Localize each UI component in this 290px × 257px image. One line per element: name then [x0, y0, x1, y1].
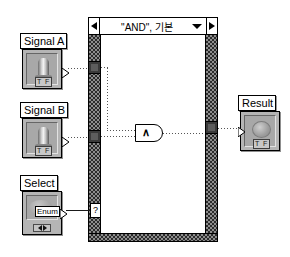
terminal-signal-b[interactable]: T F — [22, 118, 62, 158]
tf-tag-result: T F — [253, 139, 270, 149]
enum-badge: Enum — [35, 206, 60, 217]
case-selector-field[interactable]: "AND", 기본 — [100, 17, 206, 35]
case-structure[interactable]: "AND", 기본 ? ∧ — [88, 17, 218, 242]
label-result: Result — [238, 95, 276, 111]
case-selector-terminal[interactable]: ? — [90, 203, 101, 218]
round-led-icon — [252, 121, 271, 138]
wire-inner-signal-a-to-gate — [107, 130, 136, 131]
case-selector-header[interactable]: "AND", 기본 — [88, 17, 218, 35]
label-signal-a: Signal A — [20, 33, 67, 49]
tf-tag-signal-b: T F — [35, 146, 52, 156]
case-structure-bottom-border[interactable] — [88, 233, 218, 242]
wire-inner-signal-b-to-gate — [101, 136, 136, 137]
tunnel-signal-b[interactable] — [88, 130, 101, 143]
case-selector-label: "AND", 기본 — [121, 19, 173, 34]
prev-case-button[interactable] — [88, 17, 100, 35]
output-arrow-signal-a — [62, 64, 70, 74]
left-right-arrows-icon[interactable] — [33, 224, 51, 232]
label-signal-b: Signal B — [20, 102, 68, 118]
tunnel-result[interactable] — [205, 121, 218, 134]
wire-inner-signal-a-stub — [101, 67, 108, 68]
and-function-node[interactable]: ∧ — [135, 124, 163, 142]
wire-gate-to-result-tunnel — [163, 133, 205, 134]
label-select: Select — [20, 175, 58, 191]
output-arrow-signal-b — [62, 133, 70, 143]
terminal-result[interactable]: T F — [240, 111, 280, 151]
wire-select-to-selector-terminal — [66, 210, 92, 211]
chevron-down-icon[interactable] — [192, 24, 202, 29]
tf-tag-signal-a: T F — [35, 77, 52, 87]
next-case-button[interactable] — [206, 17, 218, 35]
terminal-select[interactable]: Enum — [22, 191, 62, 235]
wire-signal-b-to-tunnel — [68, 137, 90, 138]
and-gate-glyph: ∧ — [135, 124, 157, 142]
wire-tunnel-to-result — [218, 128, 240, 129]
triangle-left-icon — [91, 22, 97, 30]
triangle-right-icon — [209, 22, 215, 30]
tunnel-signal-a[interactable] — [88, 61, 101, 74]
case-structure-right-border[interactable] — [205, 34, 218, 242]
wire-signal-a-to-tunnel — [68, 68, 90, 69]
terminal-signal-a[interactable]: T F — [22, 49, 62, 89]
wire-inner-signal-a-vertical — [107, 68, 108, 131]
block-diagram-canvas: Signal A T F Signal B T F Select Enum — [0, 0, 290, 257]
